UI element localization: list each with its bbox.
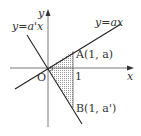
tick-label-1: 1 — [75, 70, 82, 83]
coordinate-diagram: y x O 1 y=ax y=a'x A(1, a) B(1, a') — [0, 0, 141, 136]
label-point-b: B(1, a') — [76, 102, 116, 115]
y-axis-label: y — [37, 7, 45, 20]
label-line-ax: y=ax — [94, 16, 124, 29]
x-axis-label: x — [127, 70, 134, 83]
shaded-triangle-oab — [48, 51, 73, 108]
label-point-a: A(1, a) — [75, 48, 113, 61]
origin-label: O — [37, 71, 46, 84]
line-a-prime-x — [27, 35, 82, 124]
label-line-a-prime-x: y=a'x — [11, 20, 44, 33]
y-axis-arrow-icon — [46, 9, 51, 16]
